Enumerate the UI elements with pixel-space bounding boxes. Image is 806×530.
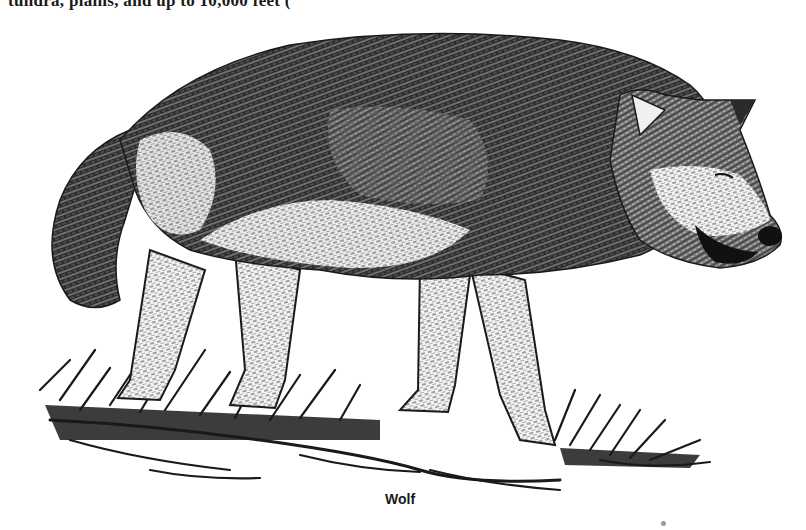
wolf-nose bbox=[758, 226, 782, 246]
figure-caption: Wolf bbox=[385, 491, 415, 507]
wolf-illustration bbox=[0, 0, 806, 530]
scan-speck bbox=[661, 521, 666, 526]
